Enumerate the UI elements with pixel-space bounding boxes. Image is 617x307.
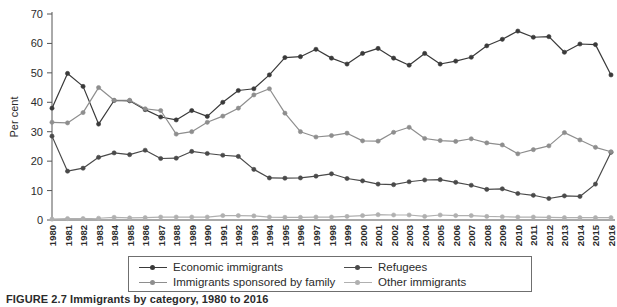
data-point bbox=[593, 182, 597, 186]
x-tick-label: 1999 bbox=[342, 225, 353, 246]
data-point bbox=[112, 151, 116, 155]
data-point bbox=[360, 51, 364, 55]
data-point bbox=[128, 216, 132, 220]
x-tick-label: 2008 bbox=[482, 225, 493, 246]
x-tick-label: 2011 bbox=[528, 224, 539, 245]
legend-marker-icon bbox=[139, 277, 167, 287]
legend-item[interactable]: Refugees bbox=[344, 261, 427, 273]
data-point bbox=[65, 169, 69, 173]
data-point bbox=[159, 215, 163, 219]
x-tick-label: 1994 bbox=[264, 224, 275, 246]
data-point bbox=[500, 37, 504, 41]
x-tick-label: 1993 bbox=[249, 225, 260, 246]
x-tick-label: 1980 bbox=[47, 225, 58, 246]
x-tick-label: 2009 bbox=[497, 225, 508, 246]
data-point bbox=[283, 215, 287, 219]
x-tick-label: 1981 bbox=[63, 224, 74, 246]
x-tick-label: 2005 bbox=[435, 224, 446, 246]
series-line bbox=[52, 136, 611, 198]
legend-marker-icon bbox=[344, 277, 372, 287]
legend-item[interactable]: Immigrants sponsored by family bbox=[139, 276, 335, 288]
data-point bbox=[143, 107, 147, 111]
data-point bbox=[423, 214, 427, 218]
data-point bbox=[469, 137, 473, 141]
x-tick-label: 1985 bbox=[125, 224, 136, 246]
x-tick-label: 1997 bbox=[311, 225, 322, 246]
data-point bbox=[360, 213, 364, 217]
data-point bbox=[360, 139, 364, 143]
data-point bbox=[267, 87, 271, 91]
data-point bbox=[562, 50, 566, 54]
data-point bbox=[190, 130, 194, 134]
x-tick-label: 1987 bbox=[156, 225, 167, 246]
data-point bbox=[159, 115, 163, 119]
x-tick-label: 2016 bbox=[606, 225, 617, 246]
data-point bbox=[112, 215, 116, 219]
data-point bbox=[314, 174, 318, 178]
data-point bbox=[298, 176, 302, 180]
data-point bbox=[454, 59, 458, 63]
data-point bbox=[392, 213, 396, 217]
data-point bbox=[485, 214, 489, 218]
data-point bbox=[50, 106, 54, 110]
data-point bbox=[609, 216, 613, 220]
data-point bbox=[236, 154, 240, 158]
data-point bbox=[190, 215, 194, 219]
data-point bbox=[469, 55, 473, 59]
data-point bbox=[593, 216, 597, 220]
data-point bbox=[547, 144, 551, 148]
x-tick-label: 2003 bbox=[404, 225, 415, 246]
x-tick-label: 1988 bbox=[171, 225, 182, 246]
x-tick-label: 1984 bbox=[109, 224, 120, 246]
data-point bbox=[376, 182, 380, 186]
data-point bbox=[360, 179, 364, 183]
data-point bbox=[392, 183, 396, 187]
y-tick-label: 50 bbox=[31, 67, 43, 79]
data-point bbox=[81, 84, 85, 88]
data-point bbox=[392, 130, 396, 134]
data-point bbox=[547, 196, 551, 200]
x-tick-label: 2000 bbox=[358, 225, 369, 246]
data-point bbox=[345, 131, 349, 135]
legend-item[interactable]: Economic immigrants bbox=[139, 261, 283, 273]
data-point bbox=[267, 176, 271, 180]
data-point bbox=[500, 143, 504, 147]
data-point bbox=[50, 217, 54, 221]
data-point bbox=[205, 120, 209, 124]
data-point bbox=[423, 136, 427, 140]
data-point bbox=[81, 216, 85, 220]
data-point bbox=[50, 134, 54, 138]
x-tick-label: 1990 bbox=[202, 225, 213, 246]
series-layer bbox=[50, 29, 613, 221]
data-point bbox=[298, 55, 302, 59]
data-point bbox=[516, 191, 520, 195]
data-point bbox=[485, 44, 489, 48]
data-point bbox=[454, 139, 458, 143]
data-point bbox=[407, 213, 411, 217]
data-point bbox=[221, 153, 225, 157]
data-point bbox=[298, 215, 302, 219]
legend-item-label: Immigrants sponsored by family bbox=[173, 276, 335, 288]
data-point bbox=[205, 151, 209, 155]
series-refugees bbox=[50, 134, 613, 201]
data-point bbox=[531, 193, 535, 197]
data-point bbox=[407, 125, 411, 129]
x-tick-label: 2015 bbox=[590, 224, 601, 246]
data-point bbox=[500, 215, 504, 219]
data-point bbox=[174, 215, 178, 219]
data-point bbox=[485, 141, 489, 145]
x-tick-label: 2007 bbox=[466, 225, 477, 246]
data-point bbox=[190, 149, 194, 153]
data-point bbox=[345, 214, 349, 218]
legend-item-label: Refugees bbox=[378, 261, 427, 273]
data-point bbox=[159, 156, 163, 160]
data-point bbox=[516, 152, 520, 156]
data-point bbox=[65, 71, 69, 75]
x-tick-label: 1983 bbox=[94, 225, 105, 246]
legend-item[interactable]: Other immigrants bbox=[344, 276, 466, 288]
data-point bbox=[236, 213, 240, 217]
data-point bbox=[81, 110, 85, 114]
data-point bbox=[516, 29, 520, 33]
x-tick-label: 2004 bbox=[420, 224, 431, 246]
data-point bbox=[485, 187, 489, 191]
